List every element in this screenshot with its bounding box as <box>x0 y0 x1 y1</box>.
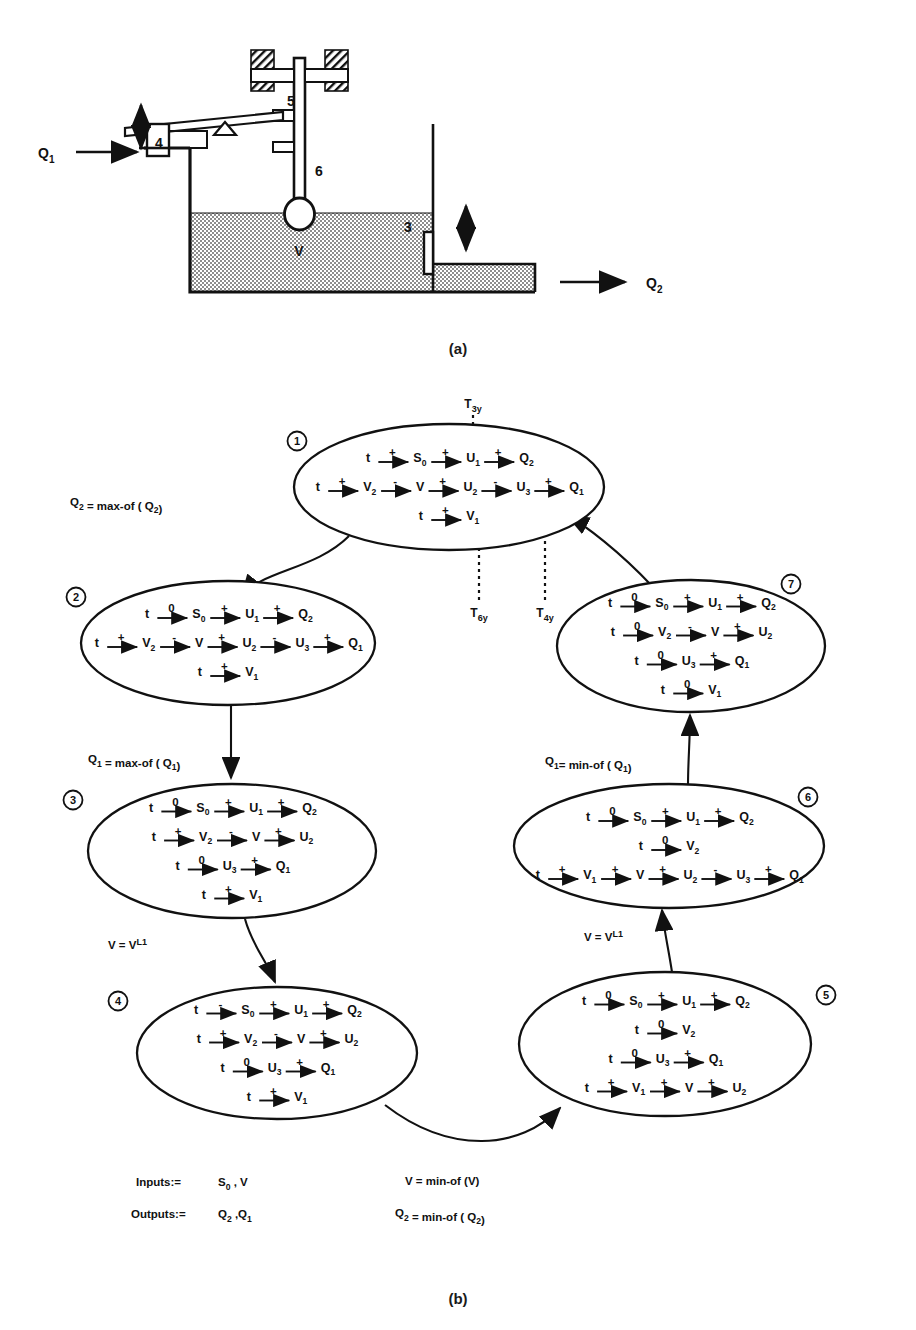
arrow-sign: - <box>272 631 276 643</box>
node-number-1: 1 <box>294 435 300 447</box>
inputs-label: Inputs:= <box>136 1176 181 1188</box>
transition-marker-T6y-label: T6y <box>470 606 487 623</box>
arrow-sign: 0 <box>199 854 205 866</box>
arrow-sign: + <box>225 796 232 808</box>
arrow-sign: + <box>495 446 502 458</box>
node-number-4: 4 <box>115 995 122 1007</box>
node-number-3: 3 <box>70 794 76 806</box>
arrow-sign: 0 <box>658 1018 664 1030</box>
arrow-sign: 0 <box>244 1056 250 1068</box>
state-node-2[interactable] <box>81 581 375 705</box>
arrow-sign: + <box>661 1076 668 1088</box>
arrow-sign: 0 <box>631 591 637 603</box>
outputs-value: Q2 ,Q1 <box>218 1208 252 1224</box>
arrow-sign: - <box>688 620 692 632</box>
figure-page: 3 6 5 4 <box>0 0 916 1330</box>
arrow-sign: + <box>221 660 228 672</box>
state-node-5[interactable] <box>519 972 811 1116</box>
edge-label-4-5-a: V = min-of (V) <box>405 1175 480 1187</box>
edge-label-2-3: Q1 = max-of ( Q1) <box>88 753 181 772</box>
arrow-sign: - <box>229 825 233 837</box>
arrow-sign: 0 <box>684 678 690 690</box>
transition-marker-T4y-label: T4y <box>536 606 553 623</box>
arrow-sign: + <box>320 1027 327 1039</box>
arrow-sign: + <box>324 631 331 643</box>
arrow-sign: 0 <box>634 620 640 632</box>
arrow-sign: + <box>442 504 449 516</box>
arrow-sign: - <box>218 998 222 1010</box>
node-number-6: 6 <box>805 791 811 803</box>
arrow-sign: + <box>559 863 566 875</box>
arrow-sign: + <box>296 1056 303 1068</box>
state-node-6[interactable] <box>514 784 824 908</box>
arrow-sign: + <box>442 446 449 458</box>
arrow-sign: + <box>737 591 744 603</box>
arrow-sign: + <box>275 825 282 837</box>
node-number-7: 7 <box>788 578 794 590</box>
arrow-sign: - <box>493 475 497 487</box>
arrow-sign: + <box>251 854 258 866</box>
arrow-sign: + <box>662 805 669 817</box>
arrow-sign: + <box>225 883 232 895</box>
state-node-7[interactable] <box>557 580 825 712</box>
arrow-sign: + <box>118 631 125 643</box>
arrow-sign: + <box>323 998 330 1010</box>
arrow-sign: + <box>270 998 277 1010</box>
var-V: V <box>297 1032 306 1046</box>
arrow-sign: + <box>339 475 346 487</box>
arrow-sign: + <box>608 1076 615 1088</box>
state-node-4[interactable] <box>137 987 417 1119</box>
arrow-sign: + <box>274 602 281 614</box>
arrow-sign: + <box>439 475 446 487</box>
var-V: V <box>636 868 645 882</box>
edge-4-to-5 <box>385 1105 560 1141</box>
arrow-sign: - <box>713 863 717 875</box>
state-node-1[interactable] <box>294 424 604 550</box>
var-V: V <box>711 625 720 639</box>
arrow-sign: + <box>389 446 396 458</box>
var-V: V <box>252 830 261 844</box>
arrow-sign: 0 <box>658 649 664 661</box>
arrow-sign: 0 <box>605 989 611 1001</box>
edge-label-3-4: V = VL1 <box>108 937 147 952</box>
arrow-sign: + <box>684 1047 691 1059</box>
edge-5-to-6 <box>662 910 672 972</box>
arrow-sign: + <box>765 863 772 875</box>
arrow-sign: + <box>270 1085 277 1097</box>
arrow-sign: + <box>278 796 285 808</box>
arrow-sign: + <box>545 475 552 487</box>
edge-label-4-5-b: Q2 = min-of ( Q2) <box>395 1207 485 1226</box>
arrow-sign: + <box>221 602 228 614</box>
figure-b-graph: Q2 = max-of ( Q2)Q1 = max-of ( Q1)V = VL… <box>0 0 916 1330</box>
arrow-sign: - <box>172 631 176 643</box>
edge-6-to-7 <box>688 715 690 786</box>
arrow-sign: + <box>659 863 666 875</box>
arrow-sign: + <box>218 631 225 643</box>
arrow-sign: + <box>708 1076 715 1088</box>
arrow-sign: + <box>684 591 691 603</box>
edge-3-to-4 <box>245 919 275 982</box>
edge-7-to-1 <box>568 516 652 586</box>
arrow-sign: 0 <box>172 796 178 808</box>
var-V: V <box>195 636 204 650</box>
arrow-sign: + <box>612 863 619 875</box>
transition-marker-T3y-label: T3y <box>464 397 481 414</box>
outputs-label: Outputs:= <box>131 1208 186 1220</box>
arrow-sign: - <box>274 1027 278 1039</box>
arrow-sign: + <box>734 620 741 632</box>
arrow-sign: + <box>711 989 718 1001</box>
caption-b: (b) <box>0 1290 916 1307</box>
arrow-sign: 0 <box>632 1047 638 1059</box>
inputs-value: S0 , V <box>218 1176 248 1192</box>
arrow-sign: 0 <box>168 602 174 614</box>
node-number-5: 5 <box>823 989 829 1001</box>
edge-label-6-7: Q1= min-of ( Q1) <box>545 755 632 774</box>
arrow-sign: 0 <box>609 805 615 817</box>
arrow-sign: + <box>715 805 722 817</box>
arrow-sign: + <box>175 825 182 837</box>
edge-label-5-6: V = VL1 <box>584 929 623 944</box>
edge-label-1-2: Q2 = max-of ( Q2) <box>70 496 163 515</box>
arrow-sign: + <box>710 649 717 661</box>
arrow-sign: 0 <box>662 834 668 846</box>
node-number-2: 2 <box>73 591 79 603</box>
